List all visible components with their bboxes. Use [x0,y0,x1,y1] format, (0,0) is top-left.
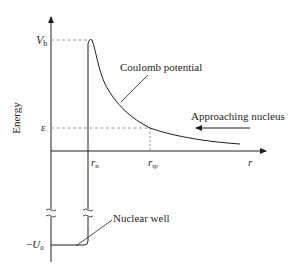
coulomb-potential-label: Coulomb potential [120,61,202,73]
energy-axis-label: Energy [10,102,22,134]
coulomb-leader-line [121,75,148,102]
well-depth-label: −U0 [26,238,44,252]
well-wall-break [82,209,94,217]
approaching-nucleus-label: Approaching nucleus [191,110,285,122]
r-axis-label: r [248,156,253,168]
barrier-height-label: Vb [36,33,47,48]
particle-energy-label: ε [41,121,46,133]
energy-axis-break [45,209,57,217]
nuclear-radius-label: rn [91,156,99,170]
potential-diagram: Energy Vb ε −U0 rn rtp r Coulomb potenti… [0,0,299,270]
nuclear-well-label: Nuclear well [113,212,170,224]
nuclear-well-leader-line [76,220,112,246]
turning-point-label: rtp [148,156,158,170]
